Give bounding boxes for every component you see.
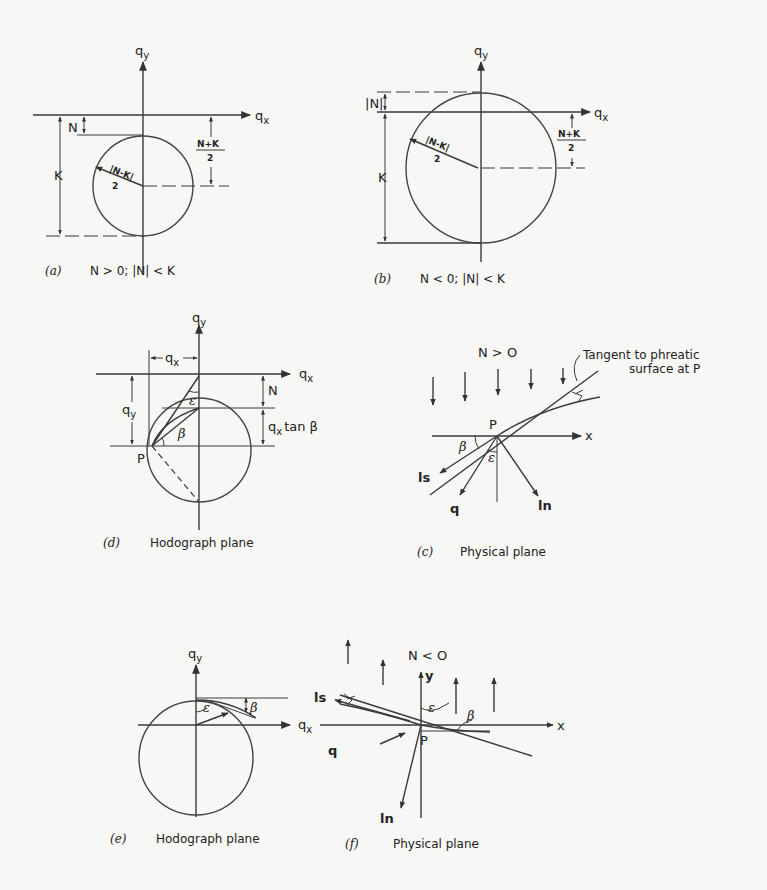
label-center-num: N+K (197, 139, 220, 149)
caption-tag-b: (b) (374, 272, 391, 286)
caption-tag-c: (c) (417, 545, 433, 559)
label-beta: β (458, 439, 467, 454)
label-x: x (585, 428, 593, 443)
caption-tag-a: (a) (45, 264, 62, 278)
panel-c: N > O x ls q ln β ε P Tangent to phrea (417, 345, 700, 559)
label-K: K (54, 168, 63, 183)
caption-f: Physical plane (393, 837, 479, 851)
label-epsilon: ε (203, 700, 210, 715)
label-ls: ls (314, 690, 326, 705)
label-qx-tan-beta: qxtan β (268, 419, 318, 437)
caption-d: Hodograph plane (150, 536, 254, 550)
label-q: q (328, 743, 337, 758)
caption-tag-e: (e) (110, 832, 127, 846)
label-N-abs: |N| (365, 96, 383, 111)
label-N-negative: N < O (408, 648, 447, 663)
panel-b: qy qx |N| K N+K 2 |N-K| 2 (b) N < 0; |N|… (365, 43, 608, 286)
caption-a: N > 0; |N| < K (90, 264, 176, 278)
label-P: P (137, 451, 145, 466)
label-epsilon: ε (488, 450, 495, 465)
label-ln: ln (538, 498, 552, 513)
caption-tag-d: (d) (103, 536, 120, 550)
label-P: P (489, 417, 497, 432)
qy-axis-label: qy (188, 646, 202, 664)
qx-axis-label: qx (299, 366, 313, 384)
caption-e: Hodograph plane (156, 832, 260, 846)
qy-axis-label: qy (474, 43, 488, 61)
label-y: y (425, 668, 434, 683)
svg-text:2: 2 (568, 143, 574, 153)
label-epsilon: ε (189, 393, 196, 408)
caption-tag-f: (f) (345, 837, 359, 851)
qx-axis-label: qx (255, 108, 269, 126)
caption-c: Physical plane (460, 545, 546, 559)
label-ln: ln (380, 811, 394, 826)
label-beta: β (466, 708, 475, 723)
tangent-line (430, 371, 598, 495)
svg-text:2: 2 (207, 153, 213, 163)
label-N: N (268, 383, 278, 398)
label-radius: |N-K| (108, 164, 135, 183)
qy-axis-label: qy (135, 43, 149, 61)
qx-axis-label: qx (594, 105, 608, 123)
label-beta: β (177, 426, 186, 441)
svg-text:2: 2 (112, 181, 118, 191)
label-beta: β (249, 700, 258, 715)
panel-e: qy qx ε β (e) Hodograph plane (110, 646, 312, 846)
label-x: x (557, 718, 565, 733)
caption-b: N < 0; |N| < K (420, 272, 506, 286)
panel-f: N < O y x ls q ln ε β P (f) Physica (314, 640, 565, 851)
panel-d: qy qx qx qy N qxtan β ε β P (d) (96, 310, 318, 550)
label-center-num: N+K (558, 129, 581, 139)
label-epsilon: ε (428, 700, 435, 715)
label-q: q (450, 501, 459, 516)
tangent-annotation-line2: surface at P (629, 362, 700, 376)
tangent-annotation-line1: Tangent to phreatic (582, 348, 700, 362)
label-P: P (420, 733, 428, 748)
qx-axis-label: qx (298, 717, 312, 735)
panel-a: qy qx N K N+K 2 |N-K| 2 (a) N > 0; |N| <… (33, 43, 269, 278)
label-K: K (378, 170, 387, 185)
label-N: N (68, 120, 78, 135)
label-N-positive: N > O (478, 345, 517, 360)
hodograph-figure: qy qx N K N+K 2 |N-K| 2 (a) N > 0; |N| <… (0, 0, 767, 890)
label-ls: ls (418, 470, 430, 485)
svg-text:2: 2 (434, 154, 440, 164)
